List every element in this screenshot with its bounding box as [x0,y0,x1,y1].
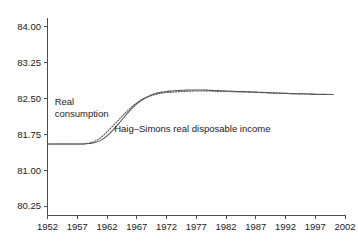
x-tick-label: 1982 [215,221,236,232]
x-tick-label: 1957 [67,221,88,232]
x-tick-label: 1997 [305,221,326,232]
x-tick-label: 1972 [156,221,177,232]
x-tick-label: 1987 [245,221,266,232]
y-tick-label: 81.00 [17,165,41,176]
annotation-line: Haig–Simons real disposable income [114,123,270,134]
annotation-group: RealconsumptionHaig–Simons real disposab… [55,96,271,134]
x-tick-label: 1952 [37,221,58,232]
y-tick-label: 84.00 [17,21,41,32]
y-tick-label: 80.25 [17,200,41,211]
x-tick-label: 2002 [334,221,355,232]
annotation-line: Real [55,96,75,107]
chart-container: 84.0083.2582.5081.7581.0080.25 195219571… [0,0,358,249]
x-tick-label: 1967 [126,221,147,232]
y-tick-label: 83.25 [17,57,41,68]
y-axis-ticks: 84.0083.2582.5081.7581.0080.25 [17,21,47,211]
annotation-haig-simons: Haig–Simons real disposable income [114,123,270,134]
annotation-line: consumption [55,108,109,119]
y-tick-label: 82.50 [17,93,41,104]
x-axis-ticks: 1952195719621967197219771982198719921997… [37,215,356,232]
x-tick-label: 1962 [96,221,117,232]
annotation-real-consumption: Realconsumption [55,96,109,119]
x-tick-label: 1992 [275,221,296,232]
y-tick-label: 81.75 [17,129,41,140]
line-chart: 84.0083.2582.5081.7581.0080.25 195219571… [0,0,358,249]
x-tick-label: 1977 [186,221,207,232]
